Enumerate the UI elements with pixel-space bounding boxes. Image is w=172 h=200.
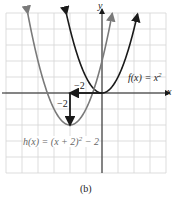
f-function-label: f(x) = x2 (128, 72, 162, 83)
graph-canvas (0, 0, 172, 200)
figure-caption: (b) (80, 184, 92, 194)
h-function-label: h(x) = (x + 2)2 − 2 (23, 136, 99, 147)
vertical-shift-label: −2 (57, 99, 68, 109)
y-axis-label: y (98, 1, 102, 11)
x-axis-label: x (167, 87, 171, 97)
horizontal-shift-label: −2 (74, 81, 85, 91)
